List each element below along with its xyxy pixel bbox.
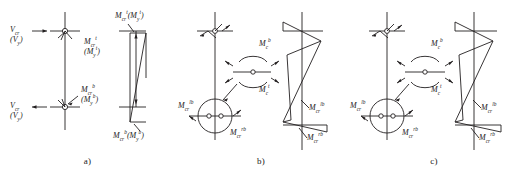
dim-arrow-bottom: [134, 100, 137, 105]
beam-moment-bottom-label-c: Mct: [431, 86, 442, 94]
bmd-bottom-label-a: Mcrb(Myb): [113, 132, 144, 140]
beam-arrowhead-lower-left-b: [225, 79, 229, 83]
top-joint-tick-2: [215, 24, 222, 31]
beam-arrowhead-lower-right-b: [275, 79, 279, 83]
beam-arrowhead-upper-left-b: [225, 61, 229, 65]
beam-moment-top-label-c: Mcb: [431, 40, 443, 48]
beam-arrowhead-upper-right-c: [449, 61, 453, 65]
bottom-joint-circle-right-c: [391, 114, 395, 118]
beam-arrowhead-lower-left-c: [397, 79, 401, 83]
bottom-joint-circle-left-b: [207, 114, 211, 118]
panel-c: Mcb Mct Mcrlb Mcrrb Mcrlb Mcrrb c): [347, 0, 521, 174]
bottom-joint-arrowhead-right-b: [237, 110, 241, 114]
bmd-lower-label-b: Mcrrb: [307, 134, 323, 142]
column-moment-right-label-c: Mcrrb: [402, 129, 418, 137]
beam-joint-circle-c: [423, 70, 427, 74]
bmd-diagonal: [130, 33, 146, 122]
beam-arrowhead-lower-right-c: [449, 79, 453, 83]
top-hinge-mark-2: [65, 31, 72, 39]
top-joint-tick-2-c: [387, 24, 394, 31]
beam-moment-arc-top-c: [411, 56, 439, 62]
bmd-lower-label-c: Mcrrb: [479, 134, 495, 142]
bmd-upper-label-b: Mcrlb: [309, 104, 324, 112]
bottom-joint-arrowhead-right-c: [409, 110, 413, 114]
bottom-joint-circle-right-b: [219, 114, 223, 118]
bending-moment-diagram-c: [455, 12, 501, 150]
panel-a-caption: a): [0, 156, 175, 166]
bmd-top-label-a: Mcrt(Myt): [115, 12, 144, 20]
moment-bottom-label-a: Mcrb (Myb): [81, 85, 98, 105]
shear-bottom-label-a: Vcr (Vy): [10, 101, 23, 121]
column-moment-left-label-c: Mcrlb: [350, 102, 365, 110]
beam-joint-circle-b: [251, 70, 255, 74]
beam-arrowhead-upper-right-b: [275, 61, 279, 65]
beam-moment-bottom-label-b: Mct: [259, 86, 270, 94]
panel-b-caption: b): [175, 156, 347, 166]
beam-moment-top-label-b: Mcb: [259, 40, 271, 48]
column-moment-left-label-b: Mcrlb: [178, 102, 193, 110]
panel-b: Mcb Mct Mcrlb Mcrrb Mcrlb Mcrrb b): [175, 0, 347, 174]
bmd-lower-label-leader-b: [299, 128, 307, 138]
beam-arrowhead-upper-left-c: [397, 61, 401, 65]
bottom-joint-arrowhead-left-c: [361, 116, 365, 120]
bottom-joint-arrowhead-left-b: [189, 116, 193, 120]
dim-arrow-top: [134, 34, 137, 39]
column-moment-right-label-b: Mcrrb: [230, 129, 246, 137]
figure-container: Vcr (Vy) Vcr (Vy) Mcrt (Myt) Mcrb (Myb) …: [0, 0, 521, 174]
bottom-shear-arrow-head: [32, 105, 37, 108]
moment-top-label-a: Mcrt (Myt): [84, 37, 100, 57]
beam-moment-arc-top-b: [239, 56, 267, 62]
panel-a: Vcr (Vy) Vcr (Vy) Mcrt (Myt) Mcrb (Myb) …: [0, 0, 175, 174]
bmd-upper-label-c: Mcrlb: [481, 104, 496, 112]
bending-moment-diagram-b: [283, 12, 327, 150]
panel-c-caption: c): [347, 156, 521, 166]
bottom-joint-circle-left-c: [379, 114, 383, 118]
bottom-moment-leader: [68, 96, 78, 104]
top-joint-arrowhead-2-c: [398, 25, 402, 29]
bmd-lower-label-leader-c: [471, 128, 479, 138]
shear-top-label-a: Vcr (Vy): [10, 25, 23, 45]
beam-to-column-leader-c: [395, 84, 409, 100]
beam-to-column-leader-b: [223, 84, 237, 100]
bending-moment-diagram-a: [130, 33, 146, 122]
top-joint-arrowhead-2: [226, 25, 230, 29]
top-shear-arrow-head: [43, 29, 48, 32]
